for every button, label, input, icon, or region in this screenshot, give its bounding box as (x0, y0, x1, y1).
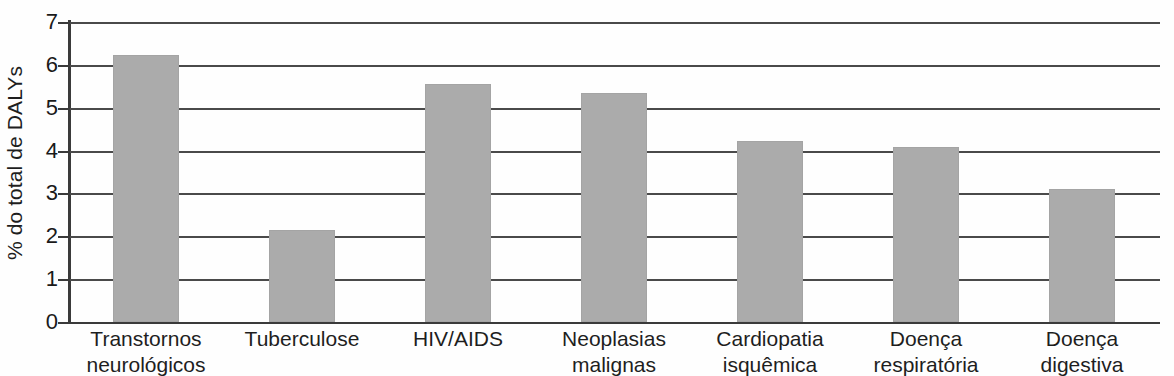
bar (269, 230, 335, 322)
y-axis-tick-label: 4 (20, 140, 58, 162)
y-axis-tick-label: 1 (20, 268, 58, 290)
y-axis-tick-mark (58, 65, 70, 67)
gridline (68, 22, 1160, 24)
gridline (68, 65, 1160, 67)
y-axis-tick-mark (58, 279, 70, 281)
y-axis-tick-mark (58, 322, 70, 324)
y-axis-tick-label: 7 (20, 11, 58, 33)
y-axis-tick-labels: 01234567 (20, 0, 58, 376)
category-label-line-2: neurológicos (68, 352, 224, 376)
category-label-line-2: respiratória (848, 352, 1004, 376)
x-axis-category-label: Cardiopatiaisquêmica (692, 326, 848, 376)
x-axis-category-label: Tuberculose (224, 326, 380, 352)
bar-chart-figure: % do total de DALYs 01234567 Transtornos… (0, 0, 1174, 376)
y-axis-tick-label: 2 (20, 225, 58, 247)
y-axis-tick-mark (58, 108, 70, 110)
category-label-line-1: HIV/AIDS (413, 327, 503, 350)
category-label-line-1: Neoplasias (562, 327, 666, 350)
category-label-line-1: Tuberculose (245, 327, 360, 350)
x-axis-category-label: Transtornosneurológicos (68, 326, 224, 376)
x-axis-category-labels: TranstornosneurológicosTuberculoseHIV/AI… (68, 326, 1160, 376)
plot-area (68, 22, 1160, 322)
gridline (68, 322, 1160, 324)
bar (737, 141, 803, 322)
y-axis-tick-mark (58, 22, 70, 24)
y-axis-tick-label: 6 (20, 54, 58, 76)
category-label-line-1: Doença (890, 327, 962, 350)
y-axis-tick-mark (58, 236, 70, 238)
category-label-line-2: malignas (536, 352, 692, 376)
y-axis-tick-label: 3 (20, 182, 58, 204)
x-axis-category-label: Neoplasiasmalignas (536, 326, 692, 376)
category-label-line-2: isquêmica (692, 352, 848, 376)
x-axis-category-label: HIV/AIDS (380, 326, 536, 352)
bar (893, 147, 959, 322)
bar (581, 93, 647, 322)
bar (113, 55, 179, 322)
category-label-line-1: Cardiopatia (716, 327, 823, 350)
bar (1049, 189, 1115, 322)
y-axis-tick-label: 5 (20, 97, 58, 119)
category-label-line-1: Doença (1046, 327, 1118, 350)
y-axis-tick-mark (58, 151, 70, 153)
bar (425, 84, 491, 322)
y-axis-tick-label: 0 (20, 311, 58, 333)
category-label-line-2: digestiva (1004, 352, 1160, 376)
x-axis-category-label: Doençarespiratória (848, 326, 1004, 376)
y-axis-tick-mark (58, 193, 70, 195)
x-axis-category-label: Doençadigestiva (1004, 326, 1160, 376)
category-label-line-1: Transtornos (90, 327, 201, 350)
